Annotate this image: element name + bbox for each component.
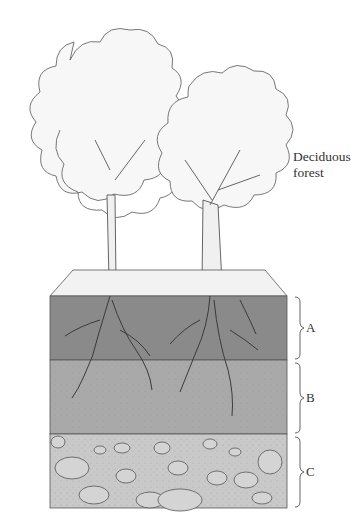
horizon-a [50,296,287,360]
soil-profile-diagram [0,0,351,523]
horizon-label-a: A [306,320,315,336]
horizon-label-b: B [306,390,315,406]
horizon-label-c: C [306,464,315,480]
forest-label: Deciduous forest [293,149,351,181]
forest-label-line1: Deciduous [293,149,351,165]
litter-layer [50,270,287,296]
forest-label-line2: forest [293,165,351,181]
tree-canopy-left [30,29,183,218]
horizon-braces [295,297,304,507]
